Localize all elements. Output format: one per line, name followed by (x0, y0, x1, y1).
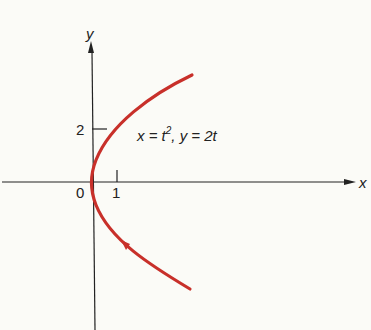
x-axis-label: x (358, 174, 367, 191)
x-axis-arrow-icon (344, 179, 356, 185)
x-tick-label-1: 1 (112, 184, 120, 201)
equation-y-part: , y = 2t (171, 127, 217, 144)
equation-label: x = t2, y = 2t (136, 125, 218, 144)
origin-label: 0 (76, 184, 84, 201)
y-tick-label-2: 2 (76, 121, 84, 138)
y-axis-arrow-icon (88, 41, 94, 53)
parametric-plot: y x 0 1 2 x = t2, y = 2t (0, 0, 371, 330)
equation-x-part: x = t (136, 127, 167, 144)
y-axis-label: y (85, 25, 95, 42)
